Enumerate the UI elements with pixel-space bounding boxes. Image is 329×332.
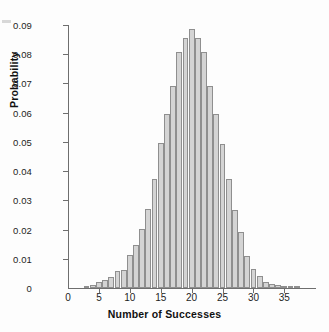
x-axis-tick-label: 30 <box>248 292 259 303</box>
x-axis-tick-label: 25 <box>217 292 228 303</box>
figure: Probability 00.010.020.030.040.050.060.0… <box>0 0 329 332</box>
x-axis-title: Number of Successes <box>0 308 329 320</box>
x-axis-tick-label: 20 <box>186 292 197 303</box>
x-axis-tick-label: 0 <box>65 292 71 303</box>
x-axis-tick-label: 15 <box>155 292 166 303</box>
x-axis-tick-label: 5 <box>96 292 102 303</box>
x-axis-tick-labels: 05101520253035 <box>0 0 329 332</box>
x-axis-tick-label: 35 <box>279 292 290 303</box>
x-axis-tick-label: 10 <box>124 292 135 303</box>
